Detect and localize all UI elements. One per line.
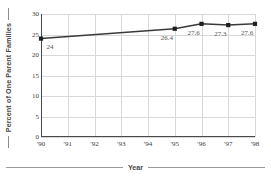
- gridline-vertical: [255, 14, 256, 137]
- x-axis-tick-labels: '90'91'92'93'94'95'96'97'98: [41, 140, 255, 152]
- x-tick-label: '91: [64, 140, 72, 148]
- x-tick-label: '95: [171, 140, 179, 148]
- data-point-value-label: 26.4: [161, 34, 173, 42]
- x-tick-label: '93: [117, 140, 125, 148]
- y-tick-label: 5: [25, 113, 39, 121]
- x-axis-title-group: Year: [6, 161, 265, 173]
- data-point-value-label: 24: [47, 43, 54, 51]
- plot-area: 2426.427.627.327.6: [41, 14, 255, 137]
- x-axis-title: Year: [123, 163, 148, 172]
- data-point-marker: [173, 27, 177, 31]
- x-tick-label: '98: [251, 140, 259, 148]
- x-tick-label: '92: [90, 140, 98, 148]
- y-axis-title-group: Percent of One Parent Families: [0, 8, 16, 148]
- y-tick-label: 30: [25, 10, 39, 18]
- y-axis-title: Percent of One Parent Families: [4, 20, 13, 135]
- y-tick-label: 25: [25, 31, 39, 39]
- x-axis-title-rule-left: [6, 167, 123, 168]
- y-axis-tick-labels: 051015202530: [24, 14, 39, 137]
- gridline-horizontal: [41, 137, 255, 138]
- data-point-value-label: 27.6: [241, 29, 253, 37]
- data-point-marker: [199, 22, 203, 26]
- x-axis-title-rule-right: [148, 167, 265, 168]
- x-tick-label: '94: [144, 140, 152, 148]
- data-point-value-label: 27.6: [187, 29, 199, 37]
- x-tick-label: '96: [197, 140, 205, 148]
- y-axis-title-rule-top: [8, 8, 9, 20]
- data-point-value-label: 27.3: [214, 30, 226, 38]
- y-tick-label: 10: [25, 92, 39, 100]
- data-point-marker: [253, 22, 257, 26]
- y-axis-title-rule-bottom: [8, 136, 9, 148]
- x-tick-label: '97: [224, 140, 232, 148]
- y-tick-label: 15: [25, 72, 39, 80]
- y-tick-label: 20: [25, 51, 39, 59]
- chart-figure: Percent of One Parent Families 051015202…: [0, 0, 271, 178]
- data-point-marker: [39, 37, 43, 41]
- x-tick-label: '90: [37, 140, 45, 148]
- data-point-marker: [226, 23, 230, 27]
